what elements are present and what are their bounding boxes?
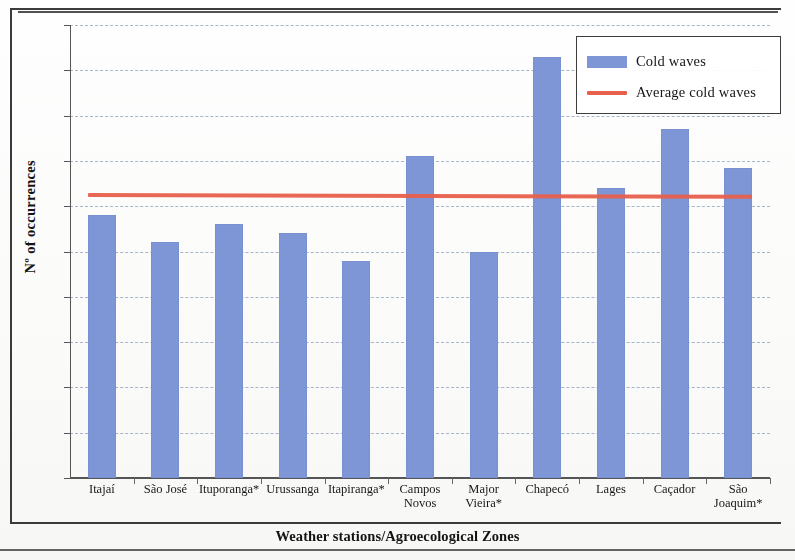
- bar-2: [215, 224, 243, 478]
- y-tick-mark-80: [64, 116, 71, 117]
- bar-8: [597, 188, 625, 478]
- bar-9: [661, 129, 689, 478]
- y-tick-mark-20: [64, 387, 71, 388]
- y-tick-mark-40: [64, 297, 71, 298]
- y-tick-mark-100: [64, 25, 71, 26]
- x-tick-mark-6: [515, 478, 516, 484]
- x-tick-mark-2: [261, 478, 262, 484]
- gridline-100: [70, 25, 770, 26]
- bar-5: [406, 156, 434, 478]
- x-tick-mark-10: [770, 478, 771, 484]
- legend-entry-average-cold-waves: Average cold waves: [587, 77, 770, 108]
- y-tick-mark-60: [64, 206, 71, 207]
- y-tick-mark-70: [64, 161, 71, 162]
- x-tick-mark-9: [706, 478, 707, 484]
- legend-bar-swatch-icon: [587, 56, 627, 68]
- chart-legend: Cold waves Average cold waves: [576, 36, 781, 114]
- bar-10: [724, 168, 752, 478]
- gridline-80: [70, 116, 770, 117]
- page-top-rule: [18, 11, 778, 13]
- bar-4: [342, 261, 370, 478]
- x-tick-mark-7: [579, 478, 580, 484]
- legend-entry-cold-waves: Cold waves: [587, 46, 770, 77]
- page-bottom-rule: [0, 549, 795, 551]
- legend-line-swatch-icon: [587, 91, 627, 95]
- legend-label-cold-waves: Cold waves: [636, 53, 706, 70]
- bar-0: [88, 215, 116, 478]
- x-axis-title: Weather stations/Agroecological Zones: [0, 528, 795, 545]
- y-tick-mark-50: [64, 252, 71, 253]
- bar-7: [533, 57, 561, 478]
- y-tick-mark-0: [64, 478, 71, 479]
- bar-6: [470, 252, 498, 479]
- y-tick-mark-10: [64, 433, 71, 434]
- bar-1: [151, 242, 179, 478]
- gridline-0: [70, 478, 770, 479]
- x-tick-mark-0: [134, 478, 135, 484]
- y-axis-title: Nº of occurrences: [22, 160, 42, 274]
- x-tick-mark-1: [197, 478, 198, 484]
- x-tick-mark-3: [325, 478, 326, 484]
- y-tick-mark-30: [64, 342, 71, 343]
- bar-3: [279, 233, 307, 478]
- x-tick-mark-4: [388, 478, 389, 484]
- y-tick-mark-90: [64, 70, 71, 71]
- x-tick-mark-8: [643, 478, 644, 484]
- x-tick-mark-5: [452, 478, 453, 484]
- legend-label-average-cold-waves: Average cold waves: [636, 84, 756, 101]
- average-cold-waves-line: [88, 193, 752, 199]
